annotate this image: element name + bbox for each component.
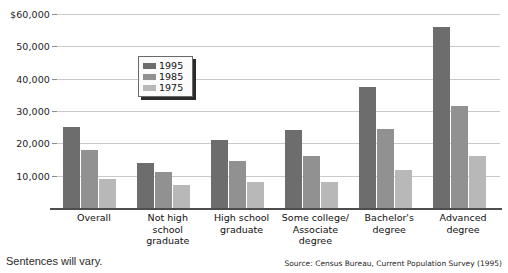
y-tick-label: 40,000: [16, 73, 50, 84]
bar: [377, 129, 394, 208]
bar: [451, 106, 468, 208]
legend-label: 1985: [159, 72, 183, 82]
bar: [63, 127, 80, 208]
bar: [155, 172, 172, 208]
x-axis-label: High schoolgraduate: [205, 212, 279, 235]
bar: [211, 140, 228, 208]
bar: [321, 182, 338, 209]
bar: [247, 182, 264, 209]
y-tick-label: 10,000: [16, 170, 50, 181]
x-axis-label: Not highschoolgraduate: [131, 212, 205, 247]
y-tick-label: 30,000: [16, 106, 50, 117]
bar: [395, 170, 412, 208]
x-axis-labels: OverallNot highschoolgraduateHigh school…: [57, 212, 500, 258]
x-axis-label: Bachelor'sdegree: [352, 212, 426, 235]
x-axis-label: Overall: [57, 212, 131, 224]
bar: [285, 130, 302, 208]
bar: [99, 179, 116, 208]
x-axis-label: Advanceddegree: [426, 212, 500, 235]
legend-item-1985: 1985: [143, 71, 188, 82]
bar-group: [279, 8, 353, 208]
bar: [137, 163, 154, 208]
y-tick-label: 20,000: [16, 138, 50, 149]
legend-label: 1975: [159, 83, 183, 93]
answer-note: Sentences will vary.: [6, 255, 102, 267]
bar-group: [352, 8, 426, 208]
bar-group: [131, 8, 205, 208]
source-note: Source: Census Bureau, Current Populatio…: [284, 259, 502, 268]
earnings-by-education-bar-chart: $60,000 50,000 40,000 30,000 20,000 10,0…: [0, 0, 508, 273]
y-axis: $60,000 50,000 40,000 30,000 20,000 10,0…: [0, 8, 53, 208]
legend-swatch-icon: [143, 85, 156, 91]
legend-item-1995: 1995: [143, 60, 188, 71]
legend-label: 1995: [159, 61, 183, 71]
bars-layer: [57, 8, 500, 208]
x-axis-label: Some college/Associatedegree: [279, 212, 353, 247]
bar: [229, 161, 246, 208]
bar: [303, 156, 320, 208]
legend-swatch-icon: [143, 74, 156, 80]
bar: [433, 27, 450, 208]
legend-swatch-icon: [143, 63, 156, 69]
bar: [359, 87, 376, 208]
bar: [173, 185, 190, 208]
bar-group: [426, 8, 500, 208]
bar-group: [57, 8, 131, 208]
chart-legend: 1995 1985 1975: [138, 56, 193, 97]
bar: [469, 156, 486, 208]
bar-group: [205, 8, 279, 208]
y-tick-label: 50,000: [16, 41, 50, 52]
bar: [81, 150, 98, 208]
y-tick-label: $60,000: [10, 9, 50, 20]
legend-item-1975: 1975: [143, 82, 188, 93]
x-axis-line: [50, 208, 502, 210]
